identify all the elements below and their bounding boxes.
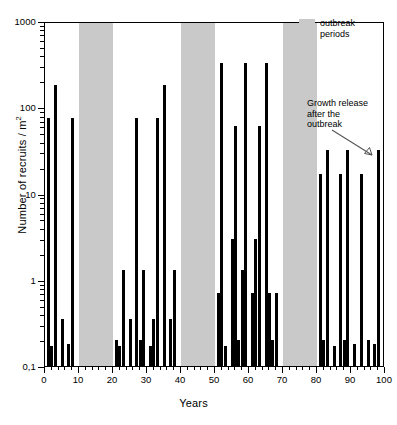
annotation-line2: after the (307, 109, 340, 119)
x-axis-minor-tick (173, 367, 174, 370)
x-axis-tick (146, 367, 147, 373)
x-axis-minor-tick (85, 367, 86, 370)
legend: outbreakperiods (299, 18, 383, 48)
x-axis-minor-tick (275, 367, 276, 370)
annotation-line1: Growth release (307, 98, 368, 108)
bar (122, 270, 125, 366)
x-axis-tick (214, 367, 215, 373)
x-axis-minor-tick (262, 367, 263, 370)
annotation-growth-release: Growth releaseafter theoutbreak (307, 98, 387, 130)
bar (319, 174, 322, 366)
y-axis-tick-label: 0,1 (22, 362, 36, 372)
x-axis-minor-tick (330, 367, 331, 370)
x-axis-minor-tick (309, 367, 310, 370)
legend-swatch-outbreak-periods (299, 19, 315, 30)
x-axis-tick (282, 367, 283, 373)
x-axis-minor-tick (296, 367, 297, 370)
bar (142, 270, 145, 366)
x-axis-minor-tick (370, 367, 371, 370)
x-axis-minor-tick (357, 367, 358, 370)
x-axis-minor-tick (323, 367, 324, 370)
x-axis-tick-label: 20 (99, 375, 125, 385)
bar (360, 174, 363, 366)
outbreak-band (181, 23, 215, 366)
x-axis-tick (180, 367, 181, 373)
x-axis-tick-label: 30 (133, 375, 159, 385)
bar (333, 346, 336, 366)
x-axis-minor-tick (71, 367, 72, 370)
bar (353, 344, 356, 366)
x-axis-minor-tick (268, 367, 269, 370)
x-axis-tick-label: 90 (337, 375, 363, 385)
y-axis-tick-label: 1 (31, 276, 36, 286)
annotation-line3: outbreak (307, 119, 342, 129)
x-axis-tick (78, 367, 79, 373)
bar (220, 63, 223, 366)
bar (54, 85, 57, 366)
legend-label-outbreak-periods: outbreakperiods (320, 18, 355, 39)
x-axis-minor-tick (228, 367, 229, 370)
x-axis-minor-tick (364, 367, 365, 370)
x-axis-minor-tick (194, 367, 195, 370)
x-axis-minor-tick (126, 367, 127, 370)
x-axis-minor-tick (200, 367, 201, 370)
x-axis-minor-tick (336, 367, 337, 370)
bar (156, 118, 159, 366)
x-axis-tick-label: 100 (371, 375, 397, 385)
bar (163, 85, 166, 366)
bar (346, 150, 349, 366)
x-axis-minor-tick (132, 367, 133, 370)
y-axis-tick-label: 1000 (14, 17, 36, 27)
x-axis-minor-tick (58, 367, 59, 370)
y-axis-tick-label: 10 (25, 190, 36, 200)
x-axis-minor-tick (98, 367, 99, 370)
x-axis-title: Years (0, 397, 387, 409)
bar (71, 118, 74, 366)
plot-area (44, 22, 384, 367)
outbreak-band (283, 23, 317, 366)
x-axis-minor-tick (207, 367, 208, 370)
y-axis-tick-labels: 10001001010,1 (0, 0, 36, 425)
y-axis-tick-label: 100 (20, 103, 36, 113)
x-axis-minor-tick (234, 367, 235, 370)
bar (367, 340, 370, 366)
x-axis-minor-tick (92, 367, 93, 370)
bar (61, 319, 64, 366)
x-axis-minor-tick (64, 367, 65, 370)
x-axis-tick-label: 10 (65, 375, 91, 385)
x-axis-tick (350, 367, 351, 373)
x-axis-tick (316, 367, 317, 373)
bar (339, 174, 342, 366)
bar (326, 150, 329, 366)
bar (244, 63, 247, 366)
x-axis-tick-label: 0 (31, 375, 57, 385)
x-axis-tick (44, 367, 45, 373)
bar (224, 346, 227, 366)
x-axis-tick (384, 367, 385, 373)
x-axis-minor-tick (302, 367, 303, 370)
bar (377, 150, 380, 366)
bar (129, 319, 132, 366)
x-axis-tick-label: 60 (235, 375, 261, 385)
bar (234, 126, 237, 366)
x-axis-minor-tick (51, 367, 52, 370)
bar (47, 118, 50, 366)
x-axis-tick-label: 80 (303, 375, 329, 385)
x-axis-tick (248, 367, 249, 373)
bar (135, 118, 138, 366)
x-axis-minor-tick (153, 367, 154, 370)
legend-label-line1: outbreak (320, 18, 355, 28)
legend-label-line2: periods (320, 29, 350, 39)
x-axis-minor-tick (255, 367, 256, 370)
x-axis-tick-label: 40 (167, 375, 193, 385)
bar (258, 126, 261, 366)
x-axis-minor-tick (119, 367, 120, 370)
x-axis-tick-label: 70 (269, 375, 295, 385)
x-axis-minor-tick (241, 367, 242, 370)
x-axis-minor-tick (221, 367, 222, 370)
bar (173, 270, 176, 366)
x-axis-minor-tick (289, 367, 290, 370)
x-axis-minor-tick (187, 367, 188, 370)
x-axis-minor-tick (105, 367, 106, 370)
x-axis-minor-tick (343, 367, 344, 370)
